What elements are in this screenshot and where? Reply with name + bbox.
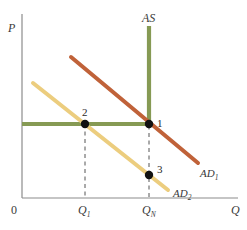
x-tick-label-q1: Q1 xyxy=(78,204,90,219)
point-2-label: 2 xyxy=(82,107,88,118)
x-tick-label-q1-text: Q xyxy=(78,203,87,217)
point-3-marker xyxy=(145,171,153,179)
ad1-curve-label-sub: 1 xyxy=(215,173,219,182)
ad2-curve-label-text: AD xyxy=(173,187,188,199)
point-2-marker xyxy=(81,120,89,128)
point-1-label: 1 xyxy=(157,118,163,129)
origin-label: 0 xyxy=(11,204,17,216)
ad1-curve-label: AD1 xyxy=(200,168,218,182)
x-tick-label-qn-sub: N xyxy=(151,210,156,219)
ad2-curve-label: AD2 xyxy=(173,188,191,202)
y-axis-label: P xyxy=(8,22,15,34)
ad-as-diagram: P Q 0 Q1 QN AS AD1 AD2 1 2 3 xyxy=(0,0,247,230)
x-tick-label-q1-sub: 1 xyxy=(87,210,91,219)
as-curve-label: AS xyxy=(142,12,155,24)
point-1-marker xyxy=(145,120,153,128)
ad1-curve-label-text: AD xyxy=(200,167,215,179)
ad1-curve xyxy=(71,57,198,163)
x-tick-label-qn: QN xyxy=(142,204,156,219)
diagram-canvas xyxy=(0,0,247,230)
x-axis-label: Q xyxy=(231,204,240,216)
x-tick-label-qn-text: Q xyxy=(142,203,151,217)
ad2-curve-label-sub: 2 xyxy=(188,193,192,202)
point-3-label: 3 xyxy=(157,164,163,175)
